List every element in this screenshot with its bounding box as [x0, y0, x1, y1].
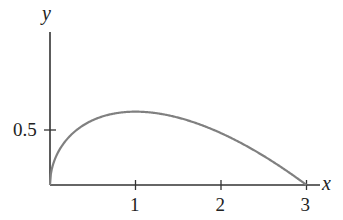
y-tick-label-05: 0.5	[13, 119, 37, 140]
x-axis-label: x	[321, 172, 331, 194]
curve-line	[50, 112, 307, 185]
y-axis-label: y	[40, 2, 51, 25]
chart: y x 1 2 3 0.5	[0, 0, 343, 220]
x-tick-label-1: 1	[130, 194, 140, 215]
x-tick-label-3: 3	[301, 194, 311, 215]
x-tick-label-2: 2	[216, 194, 226, 215]
